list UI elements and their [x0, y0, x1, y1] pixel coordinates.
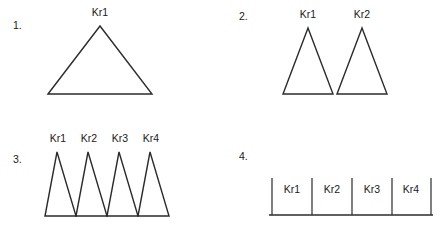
- panel-3-number: 3.: [13, 153, 22, 165]
- triangle-label-kr4: Kr4: [143, 132, 160, 144]
- panel-1-number: 1.: [13, 19, 22, 31]
- segment-label-kr3: Kr3: [364, 183, 381, 195]
- panel-1-shapes: Kr1: [48, 6, 152, 94]
- triangle-label-kr3: Kr3: [112, 132, 129, 144]
- segment-label-kr1: Kr1: [284, 183, 301, 195]
- triangle-label-kr2: Kr2: [81, 132, 98, 144]
- triangle-label-kr1: Kr1: [300, 8, 317, 20]
- panel-4: 4. Kr1 Kr2 Kr3 Kr4: [239, 150, 433, 215]
- panel-3-shapes: Kr1 Kr2 Kr3 Kr4: [45, 132, 169, 216]
- triangle-kr2: [337, 28, 387, 94]
- triangle-kr3: [107, 152, 138, 216]
- triangle-label-kr1: Kr1: [50, 132, 67, 144]
- panel-2: 2. Kr1 Kr2: [239, 8, 387, 94]
- figure-root: 1. Kr1 2. Kr1 Kr2 3. Kr1 Kr2: [0, 0, 446, 235]
- triangle-label-kr1: Kr1: [92, 6, 109, 18]
- panel-1: 1. Kr1: [13, 6, 152, 94]
- segment-label-kr4: Kr4: [403, 183, 420, 195]
- panel-2-shapes: Kr1 Kr2: [283, 8, 387, 94]
- panel-4-number: 4.: [239, 150, 248, 162]
- panel-3: 3. Kr1 Kr2 Kr3 Kr4: [13, 132, 169, 216]
- triangle-kr1: [45, 152, 76, 216]
- triangle-label-kr2: Kr2: [354, 8, 371, 20]
- panel-2-number: 2.: [239, 10, 248, 22]
- triangle-kr1: [48, 26, 152, 94]
- triangle-kr2: [76, 152, 107, 216]
- panel-4-number-line: Kr1 Kr2 Kr3 Kr4: [269, 178, 433, 215]
- triangle-kr1: [283, 28, 333, 94]
- segment-label-kr2: Kr2: [324, 183, 341, 195]
- triangle-kr4: [138, 152, 169, 216]
- krone-representations-figure: 1. Kr1 2. Kr1 Kr2 3. Kr1 Kr2: [0, 0, 446, 235]
